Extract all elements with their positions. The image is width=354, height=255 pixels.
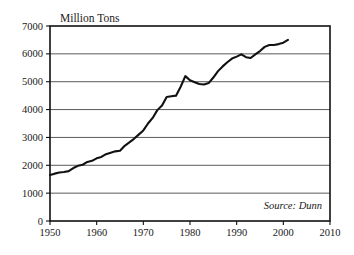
- y-tick-label-4000: 4000: [22, 104, 43, 115]
- y-tick-label-0: 0: [38, 216, 43, 227]
- y-tick-label-5000: 5000: [22, 76, 43, 87]
- y-tick-label-1000: 1000: [22, 188, 43, 199]
- y-axis-title: Million Tons: [60, 12, 120, 24]
- plot-area-background: [50, 26, 330, 221]
- x-tick-label-2000: 2000: [273, 227, 294, 238]
- x-tick-label-1950: 1950: [40, 227, 61, 238]
- y-tick-label-7000: 7000: [22, 21, 43, 32]
- y-tick-label-3000: 3000: [22, 132, 43, 143]
- x-tick-label-1960: 1960: [86, 227, 107, 238]
- x-tick-label-1990: 1990: [226, 227, 247, 238]
- y-tick-label-6000: 6000: [22, 48, 43, 59]
- x-tick-label-2010: 2010: [320, 227, 341, 238]
- y-tick-label-2000: 2000: [22, 160, 43, 171]
- chart-figure: 1950196019701980199020002010 01000200030…: [0, 0, 354, 255]
- source-note: Source: Dunn: [264, 200, 322, 211]
- x-tick-label-1980: 1980: [180, 227, 201, 238]
- x-tick-label-1970: 1970: [133, 227, 154, 238]
- line-chart-canvas: 1950196019701980199020002010 01000200030…: [0, 0, 354, 255]
